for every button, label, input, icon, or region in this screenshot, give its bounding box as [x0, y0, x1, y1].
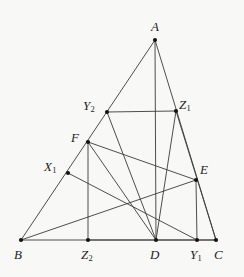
vertex-point-Y1: [195, 238, 199, 242]
vertex-point-Z1: [174, 109, 178, 113]
vertex-point-Z2: [86, 238, 90, 242]
vertex-point-C: [214, 238, 218, 242]
segment-DZ1: [156, 111, 176, 240]
segment-BE: [21, 180, 196, 240]
vertex-point-B: [19, 238, 23, 242]
vertex-label-E: E: [200, 163, 208, 176]
segment-FE: [88, 142, 196, 180]
vertex-point-X1: [66, 171, 70, 175]
vertex-label-F: F: [71, 131, 79, 144]
diagram-canvas: [0, 0, 244, 277]
vertex-label-D: D: [150, 248, 159, 261]
cevian-AD: [155, 40, 156, 240]
vertex-point-D: [154, 238, 158, 242]
segment-FD: [88, 142, 156, 240]
vertex-label-Y1: Y1: [190, 248, 202, 263]
segment-Y2Z1: [107, 111, 176, 112]
vertex-point-Y2: [105, 110, 109, 114]
points-group: [19, 38, 218, 242]
vertex-point-F: [86, 140, 90, 144]
vertex-label-Z1: Z1: [179, 98, 191, 113]
segments-group: [21, 40, 216, 240]
vertex-label-Z2: Z2: [81, 248, 93, 263]
vertex-label-X1: X1: [44, 160, 57, 175]
geometry-figure: ABCDEFX1Y1Y2Z1Z2: [0, 0, 244, 277]
vertex-label-B: B: [14, 248, 22, 261]
vertex-label-Y2: Y2: [83, 99, 95, 114]
vertex-point-E: [194, 178, 198, 182]
segment-EY1: [196, 180, 197, 240]
vertex-point-A: [153, 38, 157, 42]
segment-Y2D: [107, 112, 156, 240]
vertex-label-C: C: [214, 248, 223, 261]
vertex-label-A: A: [151, 20, 159, 33]
